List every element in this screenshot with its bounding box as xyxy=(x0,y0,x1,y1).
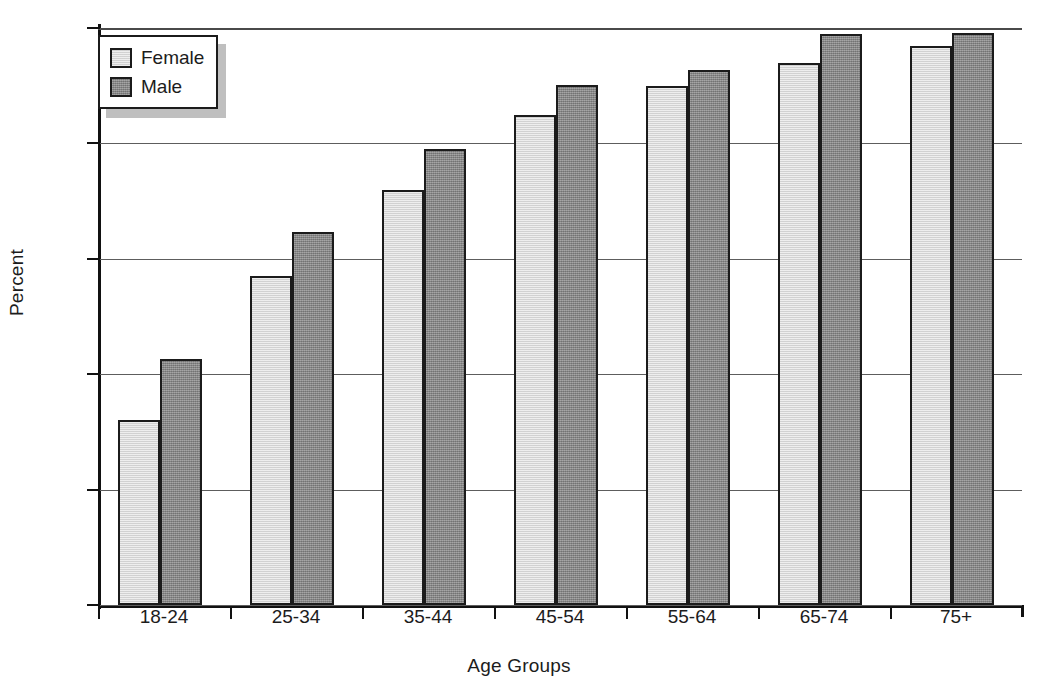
bar-male-75+ xyxy=(952,33,994,605)
y-tick-mark xyxy=(87,142,100,144)
y-tick-mark xyxy=(87,373,100,375)
chart-legend: Female Male xyxy=(98,35,218,109)
bar-male-55-64 xyxy=(688,70,730,605)
bar-female-45-54 xyxy=(514,115,556,605)
plot-area xyxy=(98,28,1022,605)
x-tick-label: 75+ xyxy=(886,606,1026,628)
bar-female-25-34 xyxy=(250,276,292,605)
legend-item-female: Female xyxy=(110,43,216,72)
x-tick-label: 18-24 xyxy=(94,606,234,628)
gridline xyxy=(98,28,1022,30)
y-tick-mark xyxy=(87,258,100,260)
x-tick-label: 35-44 xyxy=(358,606,498,628)
bar-female-18-24 xyxy=(118,420,160,605)
bar-male-18-24 xyxy=(160,359,202,605)
y-axis-title: Percent xyxy=(6,196,28,316)
y-axis-line xyxy=(98,24,101,609)
bar-male-25-34 xyxy=(292,232,334,605)
bar-male-45-54 xyxy=(556,85,598,605)
bar-female-55-64 xyxy=(646,86,688,605)
legend-label-female: Female xyxy=(141,48,204,67)
bar-female-65-74 xyxy=(778,63,820,605)
x-tick-label: 45-54 xyxy=(490,606,630,628)
legend-swatch-male-icon xyxy=(110,77,132,97)
bar-female-75+ xyxy=(910,46,952,605)
x-axis-title: Age Groups xyxy=(0,655,1038,677)
bar-male-65-74 xyxy=(820,34,862,605)
legend-item-male: Male xyxy=(110,72,216,101)
legend-swatch-female-icon xyxy=(110,48,132,68)
legend-label-male: Male xyxy=(141,77,182,96)
y-tick-mark xyxy=(87,27,100,29)
y-tick-mark xyxy=(87,489,100,491)
x-tick-label: 55-64 xyxy=(622,606,762,628)
bar-chart: Percent 020406080100 18-2425-3435-4445-5… xyxy=(0,0,1038,689)
bar-male-35-44 xyxy=(424,149,466,605)
x-tick-label: 65-74 xyxy=(754,606,894,628)
bar-female-35-44 xyxy=(382,190,424,605)
x-tick-label: 25-34 xyxy=(226,606,366,628)
